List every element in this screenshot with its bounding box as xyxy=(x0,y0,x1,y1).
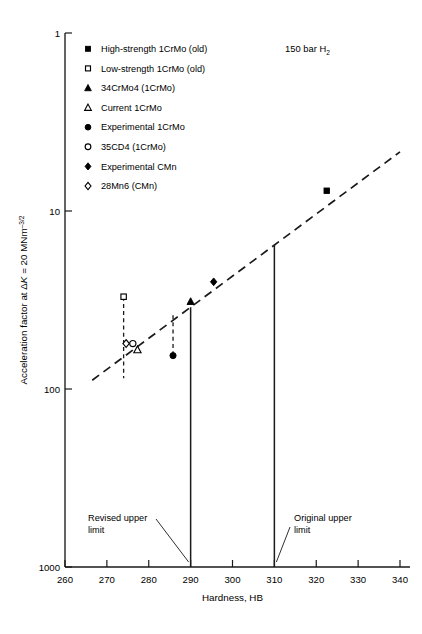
legend-item-high-strength-1crmo-old: High-strength 1CrMo (old) xyxy=(86,44,208,54)
legend-item-low-strength-1crmo-old: Low-strength 1CrMo (old) xyxy=(86,64,206,74)
annotation-line1: Original upper xyxy=(294,513,352,523)
data-point-high-strength-1crmo-old xyxy=(324,188,329,193)
x-tick-label: 340 xyxy=(392,574,408,585)
data-point-experimental-cmn xyxy=(210,278,216,286)
x-tick-label: 280 xyxy=(141,574,157,585)
annotation-line2: limit xyxy=(88,525,105,535)
x-tick-label: 260 xyxy=(57,574,73,585)
y-tick-label: 100 xyxy=(44,384,60,395)
leader-line xyxy=(276,527,290,562)
legend-label: 28Mn6 (CMn) xyxy=(101,181,157,191)
y-tick-label: 10 xyxy=(49,206,60,217)
legend-item-34crmo4-1crmo: 34CrMo4 (1CrMo) xyxy=(85,83,175,93)
y-tick-label: 1 xyxy=(55,28,60,39)
x-tick-label: 330 xyxy=(350,574,366,585)
x-tick-label: 270 xyxy=(99,574,115,585)
x-axis-title: Hardness, HB xyxy=(202,592,263,603)
x-tick-label: 290 xyxy=(183,574,199,585)
data-points xyxy=(121,188,329,359)
y-tick-label: 1000 xyxy=(39,562,60,573)
reference-lines xyxy=(191,245,275,567)
annotation-line1: Revised upper xyxy=(88,513,147,523)
legend-label: Low-strength 1CrMo (old) xyxy=(101,64,205,74)
legend-marker-open-triangle xyxy=(85,104,92,110)
legend-marker-open-diamond xyxy=(85,182,91,189)
data-point-experimental-1crmo xyxy=(170,353,176,359)
x-axis-ticks: 260270280290300310320330340 xyxy=(57,560,408,585)
legend-item-current-1crmo: Current 1CrMo xyxy=(85,103,162,113)
legend-marker-filled-diamond xyxy=(85,163,91,170)
data-point-34crmo4-1crmo xyxy=(187,298,194,305)
leader-line xyxy=(156,519,189,562)
y-axis-ticks: 1000100101 xyxy=(39,28,72,573)
data-point-35cd4-1crmo xyxy=(130,340,136,346)
annotation-line2: limit xyxy=(294,525,311,535)
figure-canvas: 1000100101260270280290300310320330340Har… xyxy=(0,0,422,634)
y-axis-title: Acceleration factor at ΔK = 20 MNm–3/2 xyxy=(18,215,29,384)
legend-label: Experimental 1CrMo xyxy=(101,122,185,132)
legend-item-experimental-1crmo: Experimental 1CrMo xyxy=(85,122,185,132)
legend-item-28mn6-cmn: 28Mn6 (CMn) xyxy=(85,181,157,191)
legend-marker-open-square xyxy=(86,66,91,71)
condition-label-text: 150 bar H2 xyxy=(285,43,330,56)
legend-marker-filled-circle xyxy=(85,124,91,130)
annotation-revised-upper-limit: Revised upperlimit xyxy=(88,513,189,562)
legend: High-strength 1CrMo (old)Low-strength 1C… xyxy=(85,44,208,191)
legend-marker-filled-square xyxy=(86,46,91,51)
x-tick-label: 300 xyxy=(224,574,240,585)
annotations: Revised upperlimitOriginal upperlimit xyxy=(88,513,352,562)
annotation-original-upper-limit: Original upperlimit xyxy=(276,513,351,562)
x-tick-label: 320 xyxy=(308,574,324,585)
chart-svg: 1000100101260270280290300310320330340Har… xyxy=(0,0,422,634)
legend-item-35cd4-1crmo: 35CD4 (1CrMo) xyxy=(85,142,166,152)
legend-label: 35CD4 (1CrMo) xyxy=(101,142,166,152)
data-point-current-1crmo xyxy=(134,346,141,353)
legend-item-experimental-cmn: Experimental CMn xyxy=(85,162,177,172)
data-point-low-strength-1crmo-old xyxy=(121,294,126,299)
condition-label: 150 bar H2 xyxy=(285,43,330,56)
legend-marker-filled-triangle xyxy=(85,85,92,91)
error-bars xyxy=(124,297,173,378)
x-tick-label: 310 xyxy=(266,574,282,585)
legend-label: 34CrMo4 (1CrMo) xyxy=(101,83,175,93)
legend-label: High-strength 1CrMo (old) xyxy=(101,44,207,54)
legend-label: Current 1CrMo xyxy=(101,103,162,113)
legend-label: Experimental CMn xyxy=(101,162,177,172)
legend-marker-open-circle xyxy=(85,144,91,150)
